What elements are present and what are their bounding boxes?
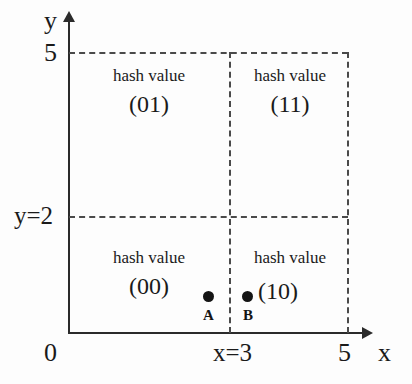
x-tick-5: 5 [338,340,351,366]
y-axis-label: y [44,8,57,34]
partition-line-y2 [69,216,348,218]
boundary-line-y5 [69,52,348,54]
data-point-b-dot [242,291,253,302]
data-point-b-label: B [243,308,253,323]
x-axis-label: x [378,340,391,366]
quadrant-top-left-code: (01) [90,90,208,119]
y-tick-5: 5 [44,40,57,66]
quadrant-bottom-left-caption: hash value [90,248,208,268]
quadrant-bottom-left: hash value (00) [90,248,208,301]
x-axis-line [68,332,365,334]
y-tick-label-y2: y=2 [14,203,53,228]
y-axis-arrow-icon [63,11,75,22]
quadrant-bottom-right-caption: hash value [240,248,340,268]
quadrant-bottom-left-code: (00) [90,272,208,301]
quadrant-top-right-code: (11) [240,90,340,119]
boundary-line-x5 [347,52,349,333]
x-tick-label-x3: x=3 [213,340,252,365]
quadrant-top-left-caption: hash value [90,66,208,86]
y-axis-line [68,20,70,334]
origin-label: 0 [44,340,57,366]
hash-partition-diagram: y x 5 y=2 0 x=3 5 hash value (01) hash v… [0,0,412,384]
quadrant-top-right: hash value (11) [240,66,340,119]
data-point-a-label: A [203,308,214,323]
x-axis-arrow-icon [362,327,373,339]
quadrant-bottom-right-code: (10) [258,278,298,305]
quadrant-top-left: hash value (01) [90,66,208,119]
quadrant-top-right-caption: hash value [240,66,340,86]
data-point-a-dot [203,291,214,302]
partition-line-x3 [229,52,231,333]
